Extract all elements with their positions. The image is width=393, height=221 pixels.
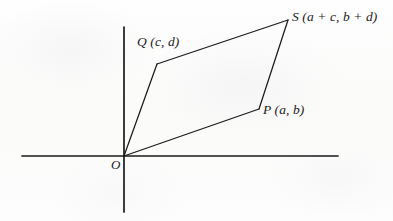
- edge-origin-to-Q: [124, 64, 157, 156]
- point-label-S: S (a + c, b + d): [292, 10, 377, 24]
- origin-label: O: [111, 158, 120, 171]
- diagram-canvas: [0, 0, 393, 221]
- point-label-P: P (a, b): [263, 103, 304, 117]
- edge-P-to-origin: [124, 109, 259, 156]
- edge-S-to-P: [259, 20, 288, 109]
- point-label-Q: Q (c, d): [137, 35, 179, 49]
- geometry-figure: S (a + c, b + d) Q (c, d) P (a, b) O: [0, 0, 393, 221]
